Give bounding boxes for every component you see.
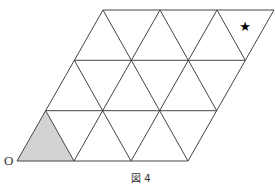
figure-caption: 図 4: [131, 170, 151, 185]
origin-label: O: [4, 153, 13, 169]
star-marker: ★: [239, 19, 251, 34]
shaded-triangle: [17, 111, 74, 161]
triangle-grid-figure: ★: [0, 0, 275, 185]
